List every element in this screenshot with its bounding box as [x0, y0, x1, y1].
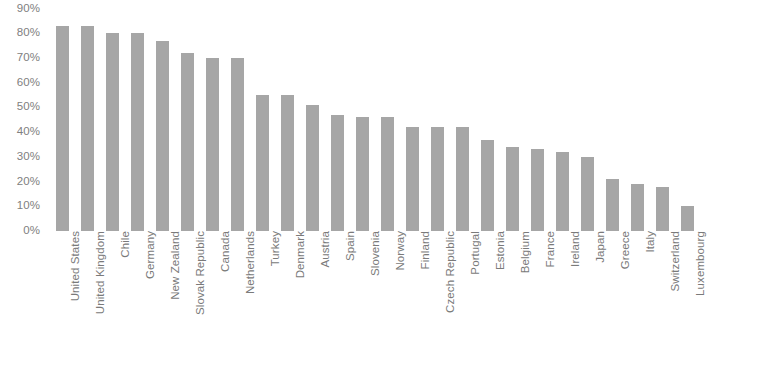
x-axis-tick-label: Slovak Republic — [194, 231, 207, 367]
bar — [206, 58, 219, 231]
bar — [331, 115, 344, 231]
bar — [456, 127, 469, 231]
x-axis-tick-label: Netherlands — [244, 231, 257, 367]
x-axis-tick-label: Estonia — [494, 231, 507, 367]
bar — [556, 152, 569, 231]
y-axis-tick-label: 30% — [0, 151, 40, 163]
y-axis-tick-label: 10% — [0, 200, 40, 212]
x-axis-tick-label: Ireland — [569, 231, 582, 367]
bar — [256, 95, 269, 231]
bar — [406, 127, 419, 231]
y-axis-tick-label: 60% — [0, 77, 40, 89]
y-axis-tick-label: 90% — [0, 3, 40, 15]
bar — [106, 33, 119, 231]
x-axis-tick-label: Canada — [219, 231, 232, 367]
bar — [681, 206, 694, 231]
x-axis-tick-label: Chile — [119, 231, 132, 367]
x-axis-tick-label: Austria — [319, 231, 332, 367]
x-axis-tick-label: Portugal — [469, 231, 482, 367]
bar — [581, 157, 594, 231]
bar-chart: 90%80%70%60%50%40%30%20%10%0% United Sta… — [0, 0, 767, 367]
y-axis-tick-label: 70% — [0, 52, 40, 64]
bar — [631, 184, 644, 231]
x-axis-tick-label: Denmark — [294, 231, 307, 367]
x-axis-tick-label: Germany — [144, 231, 157, 367]
y-axis: 90%80%70%60%50%40%30%20%10%0% — [0, 0, 40, 240]
bar — [506, 147, 519, 231]
bar — [431, 127, 444, 231]
x-axis-tick-label: Norway — [394, 231, 407, 367]
bar — [156, 41, 169, 231]
x-axis-tick-label: Greece — [619, 231, 632, 367]
x-axis-tick-label: United States — [69, 231, 82, 367]
y-axis-tick-label: 0% — [0, 225, 40, 237]
plot-area — [46, 4, 767, 231]
bar — [481, 140, 494, 231]
bar — [531, 149, 544, 231]
bar — [181, 53, 194, 231]
bar — [281, 95, 294, 231]
x-axis-tick-label: New Zealand — [169, 231, 182, 367]
x-axis: United StatesUnited KingdomChileGermanyN… — [46, 231, 767, 367]
x-axis-tick-label: France — [544, 231, 557, 367]
x-axis-tick-label: Luxembourg — [694, 231, 707, 367]
y-axis-tick-label: 40% — [0, 126, 40, 138]
x-axis-tick-label: Japan — [594, 231, 607, 367]
x-axis-tick-label: Slovenia — [369, 231, 382, 367]
y-axis-tick-label: 50% — [0, 101, 40, 113]
y-axis-tick-label: 80% — [0, 27, 40, 39]
bar — [356, 117, 369, 231]
bar — [306, 105, 319, 231]
x-axis-tick-label: Turkey — [269, 231, 282, 367]
bar — [656, 187, 669, 232]
bar — [81, 26, 94, 231]
x-axis-tick-label: United Kingdom — [94, 231, 107, 367]
bar — [606, 179, 619, 231]
x-axis-tick-label: Finland — [419, 231, 432, 367]
y-axis-tick-label: 20% — [0, 176, 40, 188]
bar — [131, 33, 144, 231]
x-axis-tick-label: Switzerland — [669, 231, 682, 367]
x-axis-tick-label: Italy — [644, 231, 657, 367]
bar — [231, 58, 244, 231]
x-axis-tick-label: Belgium — [519, 231, 532, 367]
x-axis-tick-label: Spain — [344, 231, 357, 367]
bar — [381, 117, 394, 231]
bar — [56, 26, 69, 231]
x-axis-tick-label: Czech Republic — [444, 231, 457, 367]
